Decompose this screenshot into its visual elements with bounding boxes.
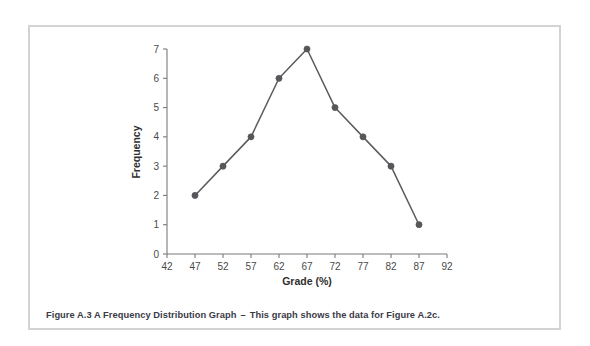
y-tick-label: 7 <box>153 44 159 55</box>
x-tick-label: 47 <box>189 261 201 272</box>
caption-lead: Figure A.3 A Frequency Distribution Grap… <box>46 310 236 320</box>
x-tick-label: 92 <box>441 261 453 272</box>
y-tick-label: 1 <box>153 219 159 230</box>
y-tick-label: 0 <box>153 249 159 260</box>
data-point <box>192 192 198 198</box>
y-tick-label: 3 <box>153 161 159 172</box>
data-point <box>220 163 226 169</box>
y-axis-tick-labels: 01234567 <box>153 44 159 260</box>
y-tick-label: 6 <box>153 73 159 84</box>
frequency-distribution-line-chart: 01234567 4247525762677277828792 Grade (%… <box>30 27 563 299</box>
data-point <box>416 222 422 228</box>
data-point <box>332 104 338 110</box>
x-tick-label: 77 <box>357 261 369 272</box>
y-tick-label: 4 <box>153 131 159 142</box>
figure-caption: Figure A.3 A Frequency Distribution Grap… <box>30 299 563 330</box>
x-tick-label: 67 <box>301 261 313 272</box>
data-point <box>388 163 394 169</box>
x-tick-label: 62 <box>273 261 285 272</box>
figure-container: 01234567 4247525762677277828792 Grade (%… <box>28 25 561 330</box>
caption-line: Figure A.3 A Frequency Distribution Grap… <box>46 310 440 320</box>
data-point <box>360 134 366 140</box>
x-axis-ticks <box>167 254 447 258</box>
y-tick-label: 5 <box>153 102 159 113</box>
frequency-series-markers <box>192 46 422 228</box>
frequency-series-line <box>195 49 419 225</box>
y-tick-label: 2 <box>153 190 159 201</box>
x-tick-label: 87 <box>413 261 425 272</box>
x-tick-label: 57 <box>245 261 257 272</box>
x-tick-label: 72 <box>329 261 341 272</box>
data-point <box>276 75 282 81</box>
data-point <box>304 46 310 52</box>
caption-body: This graph shows the data for Figure A.2… <box>250 310 440 320</box>
x-tick-label: 82 <box>385 261 397 272</box>
x-tick-label: 52 <box>217 261 229 272</box>
y-axis-ticks <box>163 49 167 254</box>
x-tick-label: 42 <box>161 261 173 272</box>
caption-dash: – <box>240 310 245 320</box>
chart-area: 01234567 4247525762677277828792 Grade (%… <box>30 27 563 299</box>
y-axis-title: Frequency <box>130 125 142 178</box>
data-point <box>248 134 254 140</box>
x-axis-tick-labels: 4247525762677277828792 <box>161 261 453 272</box>
x-axis-title: Grade (%) <box>282 275 332 287</box>
